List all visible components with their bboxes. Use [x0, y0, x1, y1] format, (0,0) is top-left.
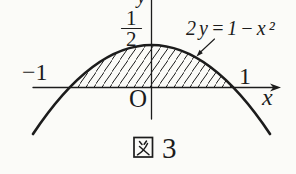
caption-figure-number: 3	[162, 132, 177, 164]
parabola-figure-canvas: y 1 2 2y=1−x² −1 1 O x 3	[0, 0, 296, 174]
x-tick-minus-one: −1	[22, 59, 48, 85]
origin-label: O	[129, 85, 147, 112]
y-axis-label: y	[135, 0, 146, 8]
figure-3-graph: y 1 2 2y=1−x² −1 1 O x 3	[0, 0, 296, 174]
x-axis-label: x	[261, 84, 273, 110]
curve-equation-label: 2y=1−x²	[186, 17, 278, 40]
y-tick-half-denominator: 2	[126, 27, 137, 51]
x-tick-one: 1	[239, 63, 251, 89]
